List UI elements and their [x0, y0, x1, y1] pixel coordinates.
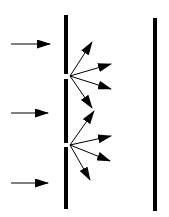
barrier-segment [64, 147, 68, 209]
barrier-segment [64, 15, 68, 74]
detection-screen [153, 18, 157, 211]
diffracted-ray-arrow-icon [70, 145, 90, 180]
diffracted-ray-arrow-icon [70, 111, 94, 145]
barrier-segment [64, 79, 68, 143]
diffracted-ray-arrow-icon [70, 76, 92, 108]
diagram-canvas [0, 0, 169, 217]
double-slit-diagram [0, 0, 169, 217]
slit-barrier [64, 15, 68, 209]
diffracted-ray-arrow-icon [70, 136, 111, 145]
diffracted-ray-arrow-icon [70, 145, 110, 161]
incident-arrows [11, 44, 50, 183]
diffracted-ray-arrow-icon [70, 76, 111, 89]
diffracted-rays [70, 42, 111, 180]
screen-line [153, 18, 157, 211]
